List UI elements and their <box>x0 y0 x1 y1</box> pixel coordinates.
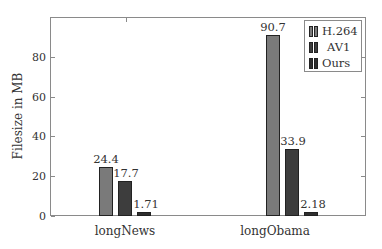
legend-swatch-icon <box>314 58 318 69</box>
y-tick-label: 40 <box>26 131 46 142</box>
x-tick-label: longNews <box>95 224 156 238</box>
bar-av1-longobama <box>285 149 299 216</box>
legend-swatch-icon <box>309 26 313 37</box>
x-tick <box>126 18 127 22</box>
legend-label: AV1 <box>327 40 350 54</box>
legend: H.264 AV1 Ours <box>304 20 362 72</box>
bar-ours-longnews <box>137 212 151 216</box>
y-tick-label: 20 <box>26 171 46 182</box>
legend-swatch-icon <box>309 58 313 69</box>
y-tick <box>51 57 55 58</box>
y-tick <box>51 176 55 177</box>
y-tick <box>361 97 365 98</box>
y-tick-label: 60 <box>26 92 46 103</box>
bar-value-label: 90.7 <box>260 20 286 34</box>
legend-swatch-icon <box>314 26 318 37</box>
y-tick <box>361 136 365 137</box>
y-tick-label: 0 <box>26 211 46 222</box>
y-tick-label: 80 <box>26 52 46 63</box>
bar-h264-longnews <box>99 167 113 216</box>
y-axis-title: Filesize in MB <box>11 73 25 160</box>
y-tick <box>51 97 55 98</box>
bar-value-label: 2.18 <box>300 197 326 211</box>
bar-value-label: 17.7 <box>113 166 139 180</box>
bar-av1-longnews <box>118 181 132 216</box>
legend-swatch-icon <box>314 42 318 53</box>
bar-ours-longobama <box>304 212 318 216</box>
legend-item-ours: Ours <box>309 56 350 70</box>
legend-label: H.264 <box>322 24 358 38</box>
legend-label: Ours <box>322 56 350 70</box>
legend-item-av1: AV1 <box>309 40 350 54</box>
y-tick <box>51 216 55 217</box>
bar-h264-longobama <box>266 35 280 216</box>
y-tick <box>51 136 55 137</box>
y-tick <box>361 176 365 177</box>
bar-value-label: 1.71 <box>133 197 159 211</box>
bar-value-label: 33.9 <box>280 134 306 148</box>
bar-value-label: 24.4 <box>93 152 119 166</box>
legend-swatch-icon <box>309 42 313 53</box>
x-tick-label: longObama <box>240 224 310 238</box>
legend-item-h264: H.264 <box>309 24 358 38</box>
